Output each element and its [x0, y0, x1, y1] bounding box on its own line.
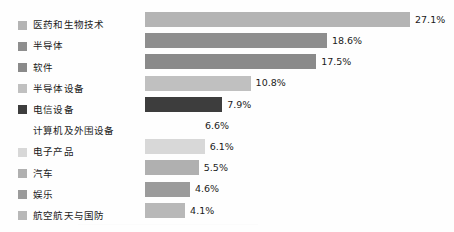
bar-row: 27.1%	[145, 12, 445, 27]
bar-value-label: 18.6%	[332, 36, 362, 46]
bar	[145, 76, 251, 91]
chart-plot-area: 27.1%18.6%17.5%10.8%7.9%6.6%6.1%5.5%4.6%…	[0, 0, 454, 232]
bar-row: 4.6%	[145, 182, 219, 197]
bar-row: 5.5%	[145, 160, 228, 175]
bar-row: 10.8%	[145, 76, 286, 91]
bar	[145, 54, 316, 69]
bar-chart: 医药和生物技术半导体软件半导体设备电信设备计算机及外围设备电子产品汽车娱乐航空航…	[0, 0, 454, 232]
bar-value-label: 4.1%	[190, 206, 214, 216]
bar	[145, 33, 327, 48]
bar-row: 6.6%	[145, 118, 229, 133]
bar-value-label: 4.6%	[195, 184, 219, 194]
bar-value-label: 17.5%	[321, 57, 351, 67]
bar-row: 6.1%	[145, 139, 234, 154]
bar-row: 17.5%	[145, 54, 351, 69]
bar	[145, 12, 410, 27]
bar-row: 4.1%	[145, 203, 214, 218]
bar	[145, 97, 222, 112]
bar	[145, 182, 190, 197]
baseline-artifact	[78, 224, 258, 225]
bar-value-label: 10.8%	[256, 78, 286, 88]
bar	[145, 118, 205, 133]
bar-value-label: 5.5%	[204, 163, 228, 173]
bar	[145, 160, 199, 175]
bar-row: 7.9%	[145, 97, 251, 112]
bar	[145, 139, 205, 154]
bar	[145, 203, 185, 218]
bar-value-label: 7.9%	[227, 100, 251, 110]
bar-value-label: 6.1%	[210, 142, 234, 152]
bar-value-label: 27.1%	[415, 15, 445, 25]
bar-value-label: 6.6%	[205, 121, 229, 131]
bar-row: 18.6%	[145, 33, 362, 48]
